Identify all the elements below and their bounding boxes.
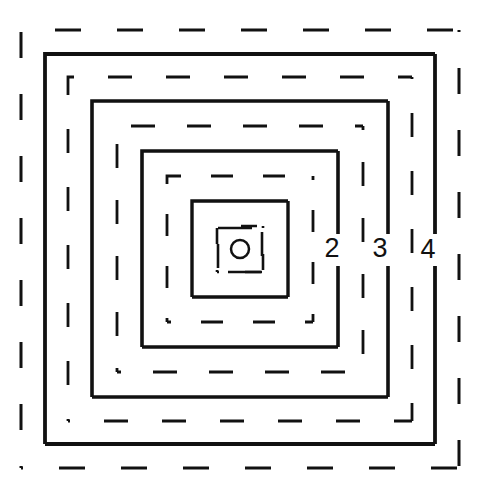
ring-label-3: 3 [372, 233, 387, 263]
center-marker-layer [231, 240, 249, 258]
ring-9-dashed-top-left [21, 30, 459, 468]
ring-7-dashed-top-left [68, 77, 412, 421]
ring-label-2: 2 [324, 233, 339, 263]
figure-root: 234 [0, 0, 482, 490]
ring-2-solid-top-left [192, 201, 288, 297]
ring-6-solid-label-3-top-left [92, 101, 388, 397]
rings-layer [21, 30, 459, 468]
center-circle [231, 240, 249, 258]
inner-marks-layer [218, 228, 262, 272]
ring-labels-layer: 234 [324, 233, 435, 264]
concentric-squares-figure: 234 [0, 0, 482, 490]
ring-1-dashed-top-left [217, 226, 263, 272]
ring-4-solid-label-2-top-left [142, 151, 338, 347]
ring-3-dashed-top-left [167, 176, 313, 322]
ring-label-4: 4 [420, 234, 435, 264]
